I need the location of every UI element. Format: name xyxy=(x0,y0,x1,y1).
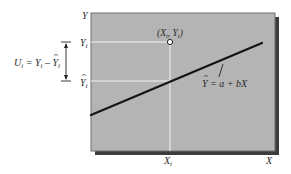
xi-label: Xi xyxy=(163,155,172,168)
observed-point xyxy=(167,39,172,44)
residual-double-arrow-icon xyxy=(61,42,71,81)
x-axis-label: X xyxy=(265,155,273,166)
plot-area xyxy=(91,13,275,151)
regression-diagram: Y Yi Yi ^ (Xi, Yi) Y = a + bX ^ Xi X Ui … xyxy=(0,0,291,174)
regression-hat-icon: ^ xyxy=(203,74,209,82)
observed-y-label: Yi xyxy=(80,37,88,50)
residual-hat-icon: ^ xyxy=(53,53,59,61)
fitted-y-hat-icon: ^ xyxy=(81,73,87,81)
y-axis-label: Y xyxy=(82,10,89,21)
point-label: (Xi, Yi) xyxy=(157,28,183,39)
regression-equation-label: Y = a + bX xyxy=(202,78,248,89)
